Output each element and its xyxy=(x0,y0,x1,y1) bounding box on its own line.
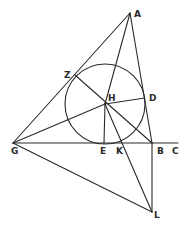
label-H: H xyxy=(108,93,116,103)
label-B: B xyxy=(157,146,164,156)
segment-HL xyxy=(105,104,152,212)
label-C: C xyxy=(172,146,179,156)
center-point-H xyxy=(104,103,106,105)
segment-HE xyxy=(104,104,105,143)
label-Z: Z xyxy=(64,70,71,80)
segment-GL xyxy=(13,143,152,212)
label-L: L xyxy=(154,210,160,220)
segment-AB xyxy=(130,13,152,143)
label-K: K xyxy=(116,146,124,156)
segment-GH xyxy=(13,104,105,143)
label-E: E xyxy=(100,146,106,156)
label-D: D xyxy=(149,93,156,103)
label-G: G xyxy=(11,146,18,156)
label-A: A xyxy=(134,9,141,19)
geometry-diagram: A Z H D G E K B C L xyxy=(0,0,190,227)
